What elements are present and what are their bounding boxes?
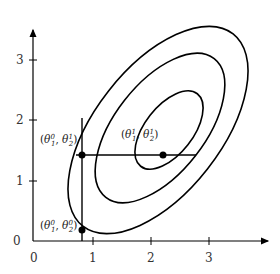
contour-middle [70,31,249,225]
y-tick-label-0: 0 [13,234,21,248]
x-tick-label-2: 2 [147,251,155,265]
x-tick-label-0: 0 [30,251,38,265]
y-tick-label-3: 3 [16,53,24,67]
x-tick-label-3: 3 [205,251,213,265]
point-step2 [160,152,167,159]
point-step1 [79,152,86,159]
label-point-step2: (θ11, θ12) [121,128,158,143]
x-tick-label-1: 1 [89,251,97,265]
y-tick-label-2: 2 [16,113,24,127]
contour-diagram: 0 1 2 3 0 1 2 3 (θ01, θ02) (θ01, θ12) (θ… [0,0,280,274]
y-tick-label-1: 1 [16,174,24,188]
label-point-step1: (θ01, θ12) [40,133,77,148]
point-start [79,227,86,234]
label-point-start: (θ01, θ02) [40,219,77,234]
